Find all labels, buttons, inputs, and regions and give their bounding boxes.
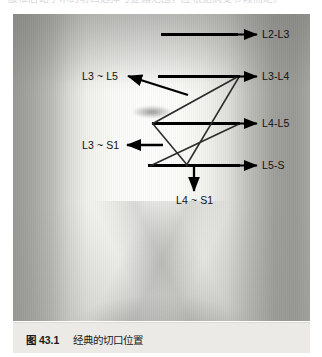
- label-l4-to-s1: L4 ~ S1: [176, 195, 213, 206]
- figure-caption-number: 图 43.1: [26, 332, 59, 347]
- label-l3-l4: L3-L4: [262, 71, 289, 82]
- label-l3-to-s1: L3 ~ S1: [82, 140, 119, 151]
- figure-caption-text: 经典的切口位置: [73, 332, 143, 347]
- label-l3-to-l5: L3 ~ L5: [82, 71, 118, 82]
- leader-arrow-l3-l5: [128, 76, 188, 95]
- figure-caption-band: 图 43.1 经典的切口位置: [13, 322, 310, 353]
- zigzag-segment-lower: [150, 124, 239, 166]
- incision-annotation-overlay: [0, 0, 322, 357]
- label-l2-l3: L2-L3: [262, 29, 289, 40]
- label-l4-l5: L4-L5: [262, 118, 289, 129]
- figure-caption: 图 43.1 经典的切口位置: [26, 332, 143, 347]
- label-l5-s: L5-S: [262, 160, 285, 171]
- figure-page: 腰椎后路手术的切口选择与显露范围，应根据病变节段而定。: [0, 0, 322, 357]
